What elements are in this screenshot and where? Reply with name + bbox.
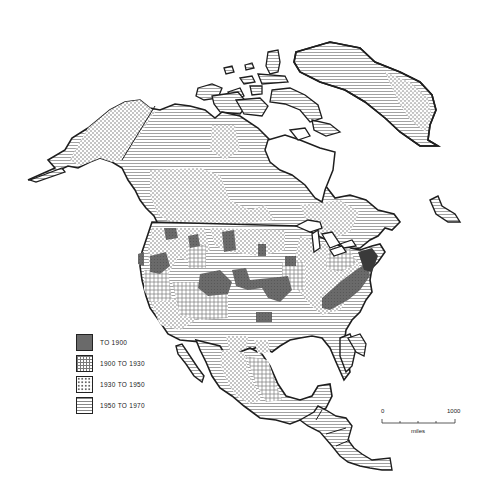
mexico [196, 340, 332, 424]
scale-bar: 0 1000 miles [381, 408, 461, 438]
legend-label: 1950 TO 1970 [100, 402, 145, 409]
legend-item-1930-1950: 1930 TO 1950 [76, 374, 216, 395]
map-legend: TO 1900 1900 TO 1930 1930 TO 1950 1950 T… [76, 332, 216, 416]
swatch-dark-solid [76, 334, 93, 351]
scale-unit-label: miles [411, 428, 425, 434]
swatch-grid [76, 355, 93, 372]
swatch-dots [76, 376, 93, 393]
legend-item-1950-1970: 1950 TO 1970 [76, 395, 216, 416]
legend-label: TO 1900 [100, 339, 127, 346]
legend-label: 1930 TO 1950 [100, 381, 145, 388]
scale-start-label: 0 [381, 408, 384, 414]
scale-line [381, 417, 461, 425]
legend-label: 1900 TO 1930 [100, 360, 145, 367]
legend-item-1900-1930: 1900 TO 1930 [76, 353, 216, 374]
legend-item-to-1900: TO 1900 [76, 332, 216, 353]
central-america [300, 406, 392, 470]
swatch-horizontal-lines [76, 397, 93, 414]
scale-end-label: 1000 [447, 408, 460, 414]
